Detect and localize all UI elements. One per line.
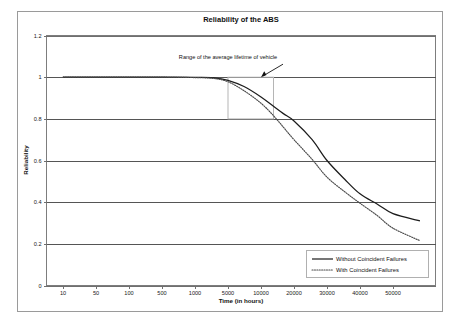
x-tick-label: 500	[157, 290, 166, 296]
y-tick-label: 0.2	[34, 241, 42, 247]
legend-box	[307, 251, 429, 278]
y-tick-label: 1.2	[34, 33, 42, 39]
x-tick-label: 10	[60, 290, 66, 296]
y-tick-label: 1	[38, 74, 41, 80]
x-tick-label: 100	[124, 290, 133, 296]
y-tick-label: 0.8	[34, 116, 42, 122]
x-axis-title: Time (in hours)	[219, 297, 264, 304]
x-tick-label: 10000	[253, 290, 269, 296]
x-tick-label: 5000	[222, 290, 234, 296]
chart-title: Reliability of the ABS	[203, 15, 279, 24]
legend: Without Coincident Failures With Coincid…	[307, 251, 429, 278]
y-tick-label: 0	[38, 283, 41, 289]
annotation-label: Range of the average lifetime of vehicle	[179, 54, 277, 60]
x-tick-label: 30000	[319, 290, 335, 296]
plot-area	[47, 36, 436, 286]
y-tick-label: 0.4	[34, 199, 42, 205]
legend-label-with-coincident-failures: With Coincident Failures	[336, 267, 399, 273]
y-axis-title: Reliability	[22, 145, 29, 175]
legend-label-without-coincident-failures: Without Coincident Failures	[336, 256, 407, 262]
x-tick-label: 1000	[189, 290, 201, 296]
y-tick-label: 0.6	[34, 158, 42, 164]
x-tick-label: 50	[93, 290, 99, 296]
x-tick-label: 50000	[385, 290, 401, 296]
x-tick-label: 20000	[286, 290, 302, 296]
reliability-chart: Reliability of the ABS Time (in hours) R…	[0, 0, 467, 327]
x-tick-label: 40000	[352, 290, 368, 296]
